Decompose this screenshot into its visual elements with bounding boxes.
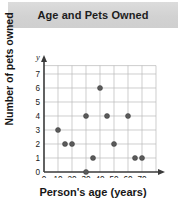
data-point <box>91 156 96 161</box>
x-tick-label: 50 <box>109 175 119 178</box>
x-tick-label: 70 <box>137 175 147 178</box>
chart-title: Age and Pets Owned <box>8 2 178 28</box>
x-tick-labels: 010203040506070 <box>42 175 147 178</box>
y-tick-label: 2 <box>35 140 40 149</box>
data-point <box>70 142 75 147</box>
y-tick-label: 1 <box>35 154 40 163</box>
data-point <box>133 156 138 161</box>
data-point <box>140 156 145 161</box>
data-point <box>105 114 110 119</box>
gridlines <box>44 66 156 172</box>
axis-lines <box>41 55 165 175</box>
data-point <box>56 128 61 133</box>
x-tick-label: 20 <box>67 175 77 178</box>
data-point <box>112 142 117 147</box>
data-point <box>63 142 68 147</box>
x-axis-title: Person's age (years) <box>8 182 178 202</box>
data-point <box>84 114 89 119</box>
y-tick-label: 6 <box>35 84 40 93</box>
data-point <box>98 86 103 91</box>
x-tick-label: 30 <box>81 175 91 178</box>
x-tick-label: 60 <box>123 175 133 178</box>
y-tick-label: 7 <box>35 70 40 79</box>
y-tick-label: 3 <box>35 126 40 135</box>
axis-variable-labels: yx <box>35 52 171 178</box>
y-axis-variable-label: y <box>35 52 40 62</box>
plot-area: 010203040506070 01234567 yx <box>0 26 186 178</box>
y-tick-label: 5 <box>35 98 40 107</box>
x-axis-variable-label: x <box>166 174 171 178</box>
data-point <box>84 170 89 175</box>
x-tick-label: 0 <box>42 175 47 178</box>
y-tick-label: 4 <box>35 112 40 121</box>
x-tick-label: 40 <box>95 175 105 178</box>
y-tick-labels: 01234567 <box>35 70 40 177</box>
x-tick-label: 10 <box>53 175 63 178</box>
y-tick-label: 0 <box>35 168 40 177</box>
scatter-plot-figure: Age and Pets Owned Number of pets owned … <box>0 0 186 209</box>
plot-svg: 010203040506070 01234567 yx <box>0 26 186 178</box>
y-axis-arrow <box>41 55 47 62</box>
x-axis-arrow <box>158 169 165 175</box>
data-point <box>126 114 131 119</box>
